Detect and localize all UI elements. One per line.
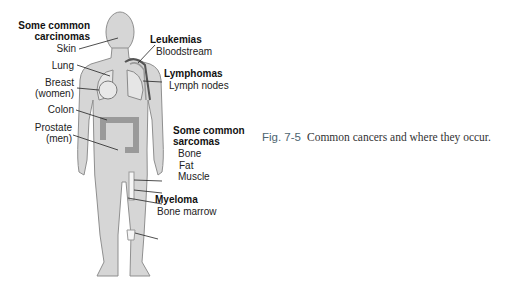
- figure-number: Fig. 7-5: [262, 131, 301, 143]
- label-prostate: Prostate: [8, 122, 72, 133]
- sarcomas-title-line1: Some common: [173, 125, 245, 136]
- label-fat: Fat: [179, 160, 193, 171]
- carcinomas-title-line1: Some common: [8, 20, 90, 31]
- label-skin: Skin: [8, 43, 76, 54]
- sarcomas-title-line2: sarcomas: [173, 136, 220, 147]
- label-lung: Lung: [8, 60, 74, 71]
- label-breast: Breast: [8, 77, 74, 88]
- label-lymph-nodes: Lymph nodes: [169, 80, 229, 91]
- label-breast-note: (women): [8, 88, 74, 99]
- figure-caption: Fig. 7-5Common cancers and where they oc…: [262, 130, 512, 145]
- label-prostate-note: (men): [8, 133, 72, 144]
- myeloma-title: Myeloma: [155, 194, 198, 205]
- lymphomas-title: Lymphomas: [164, 68, 223, 79]
- label-bloodstream: Bloodstream: [156, 46, 212, 57]
- label-muscle: Muscle: [178, 171, 210, 182]
- label-bone: Bone: [178, 148, 201, 159]
- label-colon: Colon: [8, 104, 74, 115]
- label-bone-marrow: Bone marrow: [157, 206, 216, 217]
- carcinomas-title-line2: carcinomas: [8, 31, 90, 42]
- figure-caption-text: Common cancers and where they occur.: [307, 131, 491, 143]
- leukemias-title: Leukemias: [150, 34, 202, 45]
- human-body-diagram: [0, 0, 522, 291]
